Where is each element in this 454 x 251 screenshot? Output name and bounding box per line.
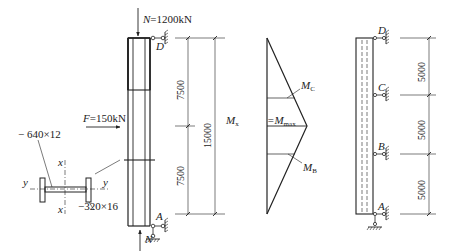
dim-lower-7500: 7500 <box>175 166 186 186</box>
support-b-label: B <box>378 140 385 152</box>
cross-section: x x y y − 640×12 −320×16 <box>18 128 120 215</box>
dim-cb-5000: 5000 <box>416 120 427 140</box>
support-d-label: D <box>155 40 164 52</box>
column-body <box>124 38 155 226</box>
mb-label: MB <box>302 161 317 175</box>
dim-total-15000: 15000 <box>202 123 213 148</box>
axis-y-right-label: y <box>102 176 108 188</box>
support-c-label: C <box>378 81 386 93</box>
flange-plate-label: −320×16 <box>78 200 118 212</box>
dimension-lines-left <box>175 36 225 216</box>
web-plate-label: − 640×12 <box>18 128 61 140</box>
support-a-label-right: A <box>377 200 385 212</box>
axis-y-left-label: y <box>22 176 28 188</box>
column-side-view <box>356 38 373 214</box>
braced-elevation: D C B A 5000 5000 5000 <box>356 24 436 230</box>
axial-load-top-label: N=1200kN <box>142 13 192 25</box>
support-a-label: A <box>155 210 163 222</box>
axis-x-bottom-label: x <box>57 203 63 215</box>
axial-load-bottom-label: N <box>144 233 153 245</box>
column-design-diagram: N=1200kN D <box>0 0 454 251</box>
section-leader <box>95 160 120 174</box>
lateral-force-label: F=150kN <box>82 112 126 124</box>
column-upper <box>128 38 150 90</box>
axis-x-top-label: x <box>57 156 63 168</box>
flange-left <box>40 178 45 202</box>
mx-label: Mx <box>225 114 239 128</box>
mc-label: MC <box>300 79 315 93</box>
support-d-label-right: D <box>377 24 386 36</box>
dim-upper-7500: 7500 <box>175 80 186 100</box>
flange-right <box>86 178 91 202</box>
column-elevation: N=1200kN D <box>82 8 225 251</box>
mmax-label: =Mmax <box>267 114 296 128</box>
web-plate <box>45 187 86 192</box>
dim-dc-5000: 5000 <box>416 62 427 82</box>
moment-diagram: MC Mx =Mmax MB <box>225 38 317 214</box>
dim-ba-5000: 5000 <box>416 180 427 200</box>
